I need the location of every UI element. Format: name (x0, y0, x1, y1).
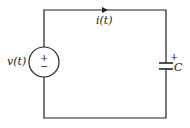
source-label: v(t) (7, 56, 26, 67)
current-label: i(t) (96, 15, 113, 26)
circuit-wires (0, 0, 190, 128)
circuit-diagram: i(t) v(t) + − + C (0, 0, 190, 128)
source-minus: − (40, 62, 48, 72)
capacitor-label: C (174, 62, 182, 73)
current-arrow-icon (102, 7, 108, 13)
bottom-wire (44, 69, 166, 118)
